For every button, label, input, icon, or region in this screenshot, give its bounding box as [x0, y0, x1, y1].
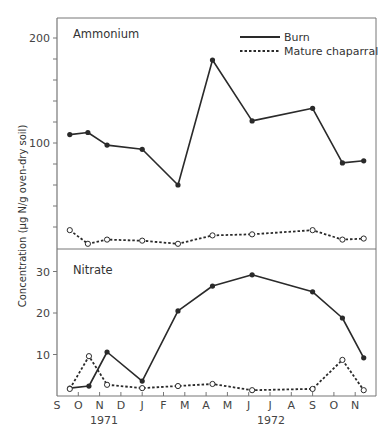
- burn-marker: [210, 283, 215, 288]
- data-series: [67, 57, 366, 392]
- burn-marker: [104, 143, 109, 148]
- nitrogen-concentration-chart: 100200 102030 SONDJFMAMJJASON Ammonium N…: [0, 0, 391, 440]
- x-tick-label: M: [223, 399, 233, 412]
- mature-marker: [210, 381, 215, 386]
- y-tick-label: 100: [29, 137, 50, 150]
- burn-marker: [250, 118, 255, 123]
- mature-marker: [361, 236, 366, 241]
- mature-marker: [67, 386, 72, 391]
- nitrate-y-axis: 102030: [36, 266, 57, 362]
- legend: Burn Mature chaparral: [240, 31, 378, 58]
- mature-marker: [104, 237, 109, 242]
- plot-frame: [57, 18, 376, 396]
- nitrate-panel-title: Nitrate: [73, 263, 113, 277]
- legend-burn-label: Burn: [284, 31, 310, 44]
- mature-marker: [310, 386, 315, 391]
- x-tick-label: J: [140, 399, 144, 412]
- burn-marker: [85, 130, 90, 135]
- x-tick-label: S: [54, 399, 61, 412]
- burn-marker: [310, 289, 315, 294]
- x-tick-label: O: [330, 399, 339, 412]
- x-tick-label: M: [180, 399, 190, 412]
- legend-mature-label: Mature chaparral: [284, 45, 378, 58]
- burn-marker: [361, 355, 366, 360]
- y-tick-label: 30: [36, 266, 50, 279]
- mature-marker: [86, 354, 91, 359]
- mature-marker: [250, 232, 255, 237]
- x-tick-label: J: [246, 399, 250, 412]
- x-tick-label: J: [267, 399, 271, 412]
- burn-marker: [175, 308, 180, 313]
- burn-marker: [210, 57, 215, 62]
- ammonium-burn-line: [70, 60, 364, 185]
- x-tick-label: N: [95, 399, 103, 412]
- y-tick-label: 10: [36, 349, 50, 362]
- mature-marker: [175, 383, 180, 388]
- mature-marker: [210, 233, 215, 238]
- mature-marker: [175, 241, 180, 246]
- y-tick-label: 20: [36, 307, 50, 320]
- ammonium-panel-title: Ammonium: [73, 27, 139, 41]
- mature-marker: [361, 388, 366, 393]
- mature-marker: [340, 237, 345, 242]
- x-tick-label: A: [202, 399, 210, 412]
- year-label-1972: 1972: [257, 414, 285, 427]
- nitrate-mature-chaparral-line: [70, 356, 364, 390]
- burn-marker: [104, 349, 109, 354]
- burn-marker: [250, 272, 255, 277]
- x-tick-label: F: [160, 399, 166, 412]
- mature-marker: [67, 228, 72, 233]
- nitrate-burn-line: [70, 275, 364, 388]
- mature-marker: [85, 241, 90, 246]
- month-x-axis: SONDJFMAMJJASON: [54, 392, 360, 412]
- y-tick-label: 200: [29, 32, 50, 45]
- burn-marker: [340, 160, 345, 165]
- burn-marker: [140, 147, 145, 152]
- burn-marker: [310, 106, 315, 111]
- burn-marker: [361, 158, 366, 163]
- year-label-1971: 1971: [90, 414, 118, 427]
- mature-marker: [140, 386, 145, 391]
- mature-marker: [340, 357, 345, 362]
- x-tick-label: D: [117, 399, 125, 412]
- mature-marker: [250, 388, 255, 393]
- mature-marker: [104, 382, 109, 387]
- ammonium-mature-chaparral-line: [70, 230, 364, 244]
- burn-marker: [175, 182, 180, 187]
- x-tick-label: S: [309, 399, 316, 412]
- mature-marker: [310, 228, 315, 233]
- x-tick-label: A: [288, 399, 296, 412]
- burn-marker: [67, 132, 72, 137]
- x-tick-label: O: [74, 399, 83, 412]
- x-tick-label: N: [351, 399, 359, 412]
- burn-marker: [340, 315, 345, 320]
- burn-marker: [140, 378, 145, 383]
- mature-marker: [140, 238, 145, 243]
- y-axis-label: Concentration (µg N/g oven-dry soil): [17, 125, 28, 308]
- burn-marker: [86, 383, 91, 388]
- ammonium-y-axis: 100200: [29, 32, 57, 227]
